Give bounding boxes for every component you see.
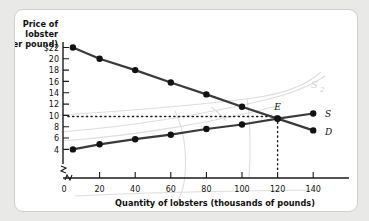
demand-point [203, 91, 209, 97]
demand-point [168, 79, 174, 85]
x-tick-label: 140 [306, 185, 321, 194]
y-tick-label: 4 [54, 146, 59, 155]
supply-point [203, 126, 209, 132]
supply-point [96, 141, 102, 147]
x-tick-label: 60 [166, 185, 176, 194]
x-tick-label: 120 [270, 185, 285, 194]
y-axis-title-line-1: Price of [23, 19, 59, 29]
ghost-supply2-label: S [311, 79, 318, 90]
y-tick-label: 12 [49, 100, 59, 109]
y-tick-label: 18 [49, 66, 59, 75]
x-axis-tick-labels: 0 20 40 60 80 100 120 140 [61, 185, 320, 194]
ghost-supply2-subscript: 2 [319, 86, 325, 94]
x-axis-ticks [100, 172, 314, 178]
y-axis-ticks [63, 48, 69, 150]
supply-curve-label: S [325, 109, 331, 119]
x-tick-label: 40 [130, 185, 140, 194]
demand-point [70, 44, 76, 50]
supply-point [310, 110, 316, 116]
supply-point [168, 132, 174, 138]
supply-point [70, 146, 76, 152]
demand-point [239, 104, 245, 110]
x-axis-title: Quantity of lobsters (thousands of pound… [115, 198, 315, 208]
x-tick-label: 100 [234, 185, 249, 194]
y-tick-label: 8 [54, 123, 59, 132]
y-tick-label: 6 [54, 134, 59, 143]
supply-point [132, 136, 138, 142]
supply-curve: S [70, 109, 331, 153]
demand-curve-label: D [324, 127, 332, 137]
y-axis-title: Price of lobster (per pound) [15, 19, 59, 49]
equilibrium-marker: E [273, 102, 281, 122]
supply-demand-chart: S 2 $22 20 18 16 1 [15, 10, 358, 212]
y-axis-title-line-2: lobster [25, 29, 59, 39]
figure-panel: S 2 $22 20 18 16 1 [14, 9, 358, 212]
x-tick-label: 80 [201, 185, 211, 194]
x-tick-label: 20 [95, 185, 105, 194]
demand-point [310, 127, 316, 133]
equilibrium-point [274, 115, 281, 122]
y-tick-label: 10 [49, 112, 59, 121]
x-tick-label: 0 [61, 185, 66, 194]
axes [61, 42, 349, 180]
y-axis-tick-labels: $22 20 18 16 14 12 10 8 6 4 [44, 44, 59, 155]
y-tick-label: 14 [49, 89, 59, 98]
ghost-artifacts: S 2 [61, 72, 325, 202]
y-tick-label: 16 [49, 78, 59, 87]
y-axis-title-line-3: (per pound) [15, 39, 58, 49]
supply-point [239, 121, 245, 127]
demand-point [96, 56, 102, 62]
demand-point [132, 67, 138, 73]
y-tick-label: 20 [49, 55, 59, 64]
equilibrium-label: E [273, 102, 281, 112]
